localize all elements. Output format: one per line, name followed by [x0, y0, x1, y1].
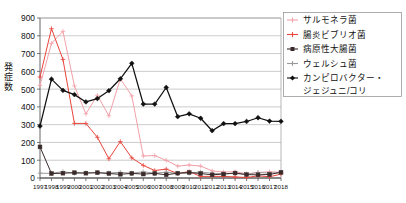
data-point [130, 171, 134, 175]
data-point [141, 172, 145, 176]
y-tick-label-200: 200 [21, 138, 35, 148]
data-point [61, 171, 65, 175]
x-tick-label-2018: 2018 [274, 183, 288, 190]
legend-marker-2 [291, 47, 295, 51]
legend-item-2[interactable]: 病原性大腸菌 [287, 43, 357, 54]
data-point [38, 145, 42, 149]
y-tick-label-400: 400 [21, 102, 35, 112]
legend-item-1[interactable]: 腸炎ビブリオ菌 [287, 29, 366, 40]
y-tick-label-900: 900 [21, 13, 35, 23]
line-chart-svg: 0100200300400500600700800900199719981999… [0, 0, 406, 203]
plot-background [40, 18, 281, 178]
data-point [107, 172, 111, 176]
legend-label-2: 病原性大腸菌 [303, 43, 357, 54]
data-point [84, 171, 88, 175]
data-point [210, 173, 214, 177]
data-point [256, 173, 260, 177]
data-point [187, 171, 191, 175]
data-point [153, 171, 157, 175]
legend-label-3: ウェルシュ菌 [303, 58, 357, 69]
y-tick-label-100: 100 [21, 156, 35, 166]
y-tick-label-300: 300 [21, 120, 35, 130]
data-point [164, 173, 168, 177]
data-point [268, 173, 272, 177]
data-point [50, 172, 54, 176]
legend: サルモネラ菌腸炎ビブリオ菌病原性大腸菌ウェルシュ菌カンピロバクター・ジェジュニ/… [284, 13, 402, 97]
y-tick-label-600: 600 [21, 67, 35, 77]
y-tick-label-0: 0 [30, 173, 35, 183]
legend-item-3[interactable]: ウェルシュ菌 [287, 58, 357, 69]
legend-label-1: 腸炎ビブリオ菌 [303, 29, 366, 40]
y-tick-label-800: 800 [21, 31, 35, 41]
data-point [199, 172, 203, 176]
legend-marker-4 [290, 75, 295, 80]
data-point [233, 171, 237, 175]
data-point [95, 171, 99, 175]
data-point [176, 171, 180, 175]
legend-label-4-line2: ジェジュニ/コリ [303, 86, 367, 96]
legend-label-4: カンピロバクター・ [303, 73, 384, 83]
x-axis-labels: 1997199819992000200120022003200420052006… [33, 178, 288, 190]
data-point [222, 172, 226, 176]
y-tick-label-500: 500 [21, 85, 35, 95]
legend-item-0[interactable]: サルモネラ菌 [287, 14, 357, 25]
chart-container: 発 症 数 0100200300400500600700800900199719… [0, 0, 406, 203]
y-tick-label-700: 700 [21, 49, 35, 59]
legend-item-4[interactable]: カンピロバクター・ジェジュニ/コリ [287, 73, 384, 96]
data-point [73, 171, 77, 175]
data-point [118, 172, 122, 176]
legend-label-0: サルモネラ菌 [303, 14, 357, 25]
data-point [245, 173, 249, 177]
data-point [279, 170, 283, 174]
